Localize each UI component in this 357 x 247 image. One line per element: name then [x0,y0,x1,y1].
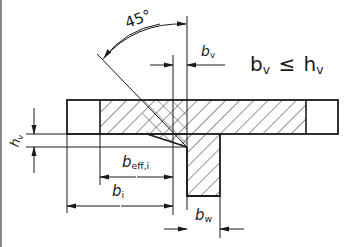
bv-label-sub: v [210,50,215,60]
t-section-drawing [0,0,357,247]
bi-label-base: b [112,182,122,200]
beff-dimension [100,134,173,215]
bw-label: bw [195,208,212,224]
beff-label-base: b [122,153,132,171]
bi-label: bi [112,184,124,200]
bw-label-base: b [195,206,205,224]
bi-label-sub: i [122,189,125,200]
bv-label-base: b [201,43,210,59]
condition-lhs: b [250,52,263,76]
condition-rhs-sub: v [316,62,323,77]
section-hatch [100,100,306,196]
bv-label: bv [201,44,215,60]
condition-rhs: h [304,52,317,76]
beff-label: beff,i [122,155,149,171]
bw-label-sub: w [205,213,213,224]
condition-operator: ≤ [278,52,295,76]
beff-label-sub: eff,i [132,160,150,171]
bi-dimension [67,134,173,213]
condition-lhs-sub: v [263,62,270,77]
condition-formula: bv ≤ hv [250,54,324,77]
